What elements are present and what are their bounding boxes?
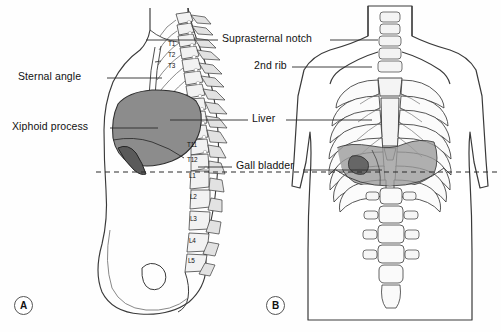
label-suprasternal-notch: Suprasternal notch — [222, 33, 312, 44]
vertebra-label-t1: T1 — [168, 41, 175, 47]
label-gall-bladder: Gall bladder — [236, 160, 294, 171]
panel-id-a: A — [14, 296, 33, 315]
vertebral-column-anterior — [378, 12, 402, 72]
pelvis-outline-lateral — [142, 263, 166, 289]
label-second-rib: 2nd rib — [254, 60, 287, 71]
vertebra-label-t2: T2 — [168, 52, 175, 58]
sacrum-anterior — [382, 285, 401, 308]
inner-abdominal-wall — [107, 230, 188, 310]
panel-id-b: B — [266, 296, 285, 315]
label-xiphoid-process: Xiphoid process — [12, 121, 88, 132]
manubrium — [378, 78, 402, 96]
anatomy-figure: Sternal angle Xiphoid process Suprastern… — [0, 0, 501, 332]
panel-b-anterior-view — [292, 6, 488, 320]
lumbar-vertebrae-anterior — [378, 188, 404, 283]
vertebra-label-t11: T11 — [187, 142, 197, 148]
panel-a-lateral-view — [98, 8, 227, 314]
vertebra-label-l5: L5 — [188, 258, 195, 264]
vertebra-label-t12: T12 — [187, 157, 197, 163]
sternum-body — [381, 98, 399, 146]
vertebra-label-l4: L4 — [189, 238, 196, 244]
label-liver: Liver — [252, 113, 275, 124]
vertebra-label-t3: T3 — [168, 63, 175, 69]
vertebra-label-l1: L1 — [189, 173, 196, 179]
vertebra-label-l2: L2 — [190, 194, 197, 200]
label-sternal-angle: Sternal angle — [18, 71, 81, 82]
vertebra-label-l3: L3 — [190, 216, 197, 222]
